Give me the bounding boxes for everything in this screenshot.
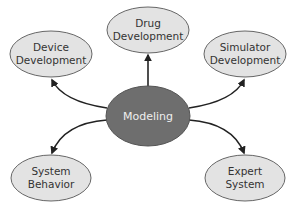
center-label: Modeling [123,110,173,123]
edge-to-expert [189,120,244,153]
modeling-diagram: Device Development Drug Development Simu… [0,0,296,205]
node-modeling-center: Modeling [106,86,190,146]
node-simulator-development: Simulator Development [204,31,286,77]
node-label-line1: Simulator [220,41,271,53]
node-system-behavior: System Behavior [11,155,91,201]
node-label-line2: Development [16,54,87,66]
edge-to-system [52,120,107,153]
node-label-line2: Behavior [28,178,75,190]
node-label-line1: Expert [228,165,262,177]
node-label-line1: Device [33,41,69,53]
node-device-development: Device Development [10,31,92,77]
node-label-line2: System [225,178,264,190]
node-label-line2: Development [210,54,281,66]
edge-to-device [52,80,107,108]
node-label-line2: Development [113,30,184,42]
node-drug-development: Drug Development [107,7,189,53]
edge-to-simulator [189,80,244,108]
node-expert-system: Expert System [205,155,285,201]
node-label-line1: Drug [135,17,161,29]
node-label-line1: System [31,165,70,177]
